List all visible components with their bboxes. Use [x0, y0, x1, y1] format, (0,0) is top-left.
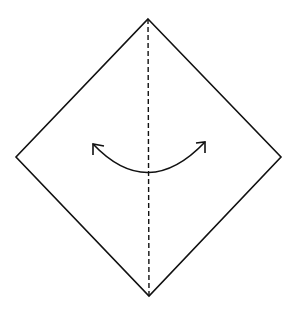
- valley-fold-line: [148, 19, 149, 296]
- origami-diagram: [0, 0, 292, 314]
